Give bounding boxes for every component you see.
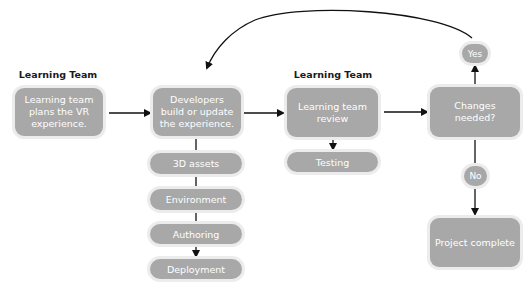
branch-no: No <box>464 166 487 186</box>
vr-development-flowchart: Learning Team Learning Team Learning tea… <box>0 0 530 285</box>
step-testing: Testing <box>287 152 378 172</box>
step-deployment: Deployment <box>150 259 242 279</box>
step-environment: Environment <box>150 189 242 210</box>
node-team-review: Learning team review <box>287 88 378 137</box>
node-complete-label: Project complete <box>435 237 515 249</box>
node-plan-label: Learning team plans the VR experience. <box>19 94 99 130</box>
step-3d-assets: 3D assets <box>150 153 242 174</box>
branch-yes: Yes <box>462 44 488 63</box>
team-label-review: Learning Team <box>294 69 372 80</box>
node-project-complete: Project complete <box>430 218 520 267</box>
node-plan-experience: Learning team plans the VR experience. <box>15 88 103 136</box>
node-build-experience: Developers build or update the experienc… <box>153 88 241 136</box>
step-authoring: Authoring <box>150 224 242 244</box>
team-label-planning: Learning Team <box>19 69 97 80</box>
arrow-yes-loop-to-build <box>207 10 472 68</box>
node-review-label: Learning team review <box>291 101 374 125</box>
node-build-label: Developers build or update the experienc… <box>157 94 237 130</box>
node-changes-needed: Changes needed? <box>430 87 520 137</box>
node-decision-label: Changes needed? <box>434 100 516 124</box>
